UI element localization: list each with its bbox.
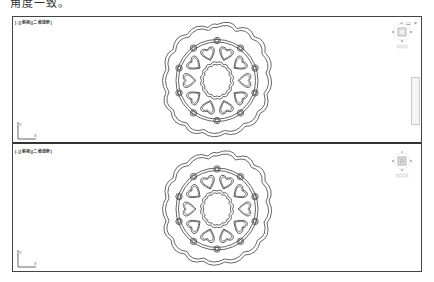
- viewport-bottom[interactable]: [-][俯视][二维线框] Y X: [13, 146, 421, 271]
- svg-text:Y: Y: [19, 122, 22, 127]
- ucs-icon: Y X: [16, 249, 38, 269]
- viewcube-icon[interactable]: [391, 21, 413, 51]
- viewport-label[interactable]: [-][俯视][二维线框]: [15, 19, 52, 25]
- viewport-top[interactable]: [-][俯视][二维线框] – ▭ ×: [13, 17, 421, 144]
- svg-text:X: X: [34, 261, 37, 266]
- svg-text:Y: Y: [19, 250, 22, 255]
- cut-off-caption: 角度一致。: [10, 0, 70, 10]
- navigation-bar[interactable]: [411, 77, 420, 125]
- mandala-drawing[interactable]: [157, 147, 277, 271]
- viewcube-icon[interactable]: [391, 150, 413, 180]
- viewcube[interactable]: [391, 150, 413, 180]
- mandala-drawing[interactable]: [157, 17, 277, 144]
- drawing-window: [-][俯视][二维线框] – ▭ ×: [12, 16, 422, 272]
- viewcube[interactable]: [391, 21, 413, 51]
- svg-text:X: X: [34, 133, 37, 138]
- ucs-icon: Y X: [16, 121, 38, 141]
- viewport-label[interactable]: [-][俯视][二维线框]: [15, 148, 52, 154]
